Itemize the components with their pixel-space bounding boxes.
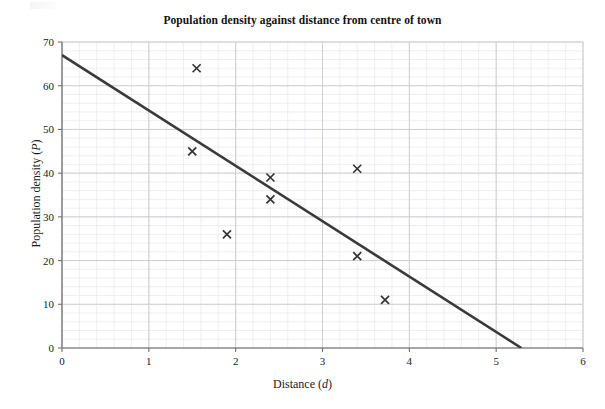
chart-figure: Population density against distance from…	[0, 0, 605, 409]
x-tick-label: 0	[59, 355, 65, 367]
y-axis-label-text: Population density (	[29, 151, 43, 248]
y-axis-tick-labels: 010203040506070	[43, 36, 55, 354]
y-tick-label: 30	[43, 211, 55, 223]
y-axis-variable: P	[29, 144, 43, 151]
x-tick-label: 2	[233, 355, 239, 367]
x-tick-label: 6	[580, 355, 586, 367]
x-tick-label: 3	[320, 355, 326, 367]
x-tick-label: 4	[407, 355, 413, 367]
y-tick-label: 20	[43, 255, 55, 267]
x-axis-tick-labels: 0123456	[59, 355, 586, 367]
y-tick-label: 10	[43, 298, 55, 310]
y-axis-label-tail: )	[29, 140, 43, 144]
y-tick-label: 50	[43, 123, 55, 135]
x-axis-label-text: Distance (	[273, 377, 322, 391]
y-axis-label: Population density (P)	[29, 64, 44, 324]
scatter-plot: 0123456 010203040506070	[0, 0, 605, 409]
y-tick-label: 70	[43, 36, 55, 48]
y-tick-label: 40	[43, 167, 55, 179]
x-tick-label: 5	[493, 355, 499, 367]
y-tick-label: 0	[49, 342, 55, 354]
x-axis-label-tail: )	[328, 377, 332, 391]
x-axis-label: Distance (d)	[0, 377, 605, 392]
x-tick-label: 1	[146, 355, 152, 367]
y-tick-label: 60	[43, 80, 55, 92]
